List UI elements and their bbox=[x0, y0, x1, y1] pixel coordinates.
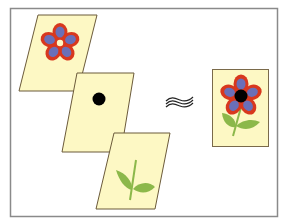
layer-composition-diagram bbox=[0, 0, 290, 222]
center-dot-icon bbox=[93, 93, 106, 106]
composite-flower-card bbox=[213, 70, 269, 147]
